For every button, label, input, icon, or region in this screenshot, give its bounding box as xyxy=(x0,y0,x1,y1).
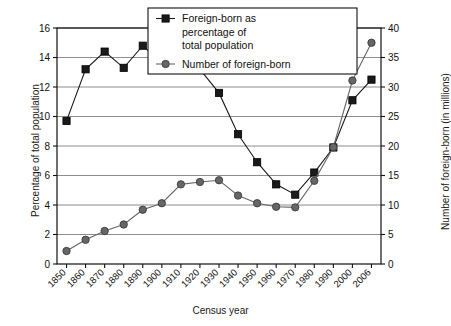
data-point xyxy=(215,177,222,184)
x-tick-label: 2000 xyxy=(331,267,354,290)
x-tick-label: 1940 xyxy=(217,267,240,290)
data-point xyxy=(158,200,165,207)
y-tick-label-right: 0 xyxy=(388,259,394,270)
x-tick-label: 1980 xyxy=(293,267,316,290)
data-point xyxy=(101,227,108,234)
y-axis-right-ticks: 0510152025303540 xyxy=(381,23,400,270)
data-point xyxy=(292,204,299,211)
y-axis-left-ticks: 0246810121416 xyxy=(39,23,57,270)
y-axis-left-title: Percentage of total population xyxy=(30,56,41,246)
data-point xyxy=(63,247,70,254)
data-point xyxy=(330,143,337,150)
data-point xyxy=(273,181,280,188)
y-tick-label-right: 20 xyxy=(388,141,400,152)
x-tick-label: 1870 xyxy=(83,267,106,290)
y-tick-label-right: 15 xyxy=(388,170,400,181)
data-point xyxy=(139,42,146,49)
x-tick-label: 1850 xyxy=(45,267,68,290)
data-point xyxy=(349,97,356,104)
legend-label: Number of foreign-born xyxy=(182,58,291,70)
data-point xyxy=(139,206,146,213)
x-axis-title: Census year xyxy=(0,305,441,316)
data-point xyxy=(234,131,241,138)
y-tick-label-left: 6 xyxy=(44,170,50,181)
data-point xyxy=(368,76,375,83)
data-point xyxy=(272,203,279,210)
x-tick-label: 1860 xyxy=(64,267,87,290)
data-point xyxy=(101,48,108,55)
data-point xyxy=(215,89,222,96)
x-tick-label: 1910 xyxy=(160,267,183,290)
x-tick-label: 1970 xyxy=(274,267,297,290)
chart-legend: Foreign-born aspercentage oftotal popula… xyxy=(148,8,357,74)
y-tick-label-right: 10 xyxy=(388,200,400,211)
y-tick-label-right: 30 xyxy=(388,82,400,93)
legend-label: total population xyxy=(182,39,253,51)
y-tick-label-left: 2 xyxy=(44,229,50,240)
y-tick-label-right: 40 xyxy=(388,23,400,34)
x-tick-label: 1880 xyxy=(102,267,125,290)
y-tick-label-right: 25 xyxy=(388,111,400,122)
data-point xyxy=(253,200,260,207)
data-point xyxy=(292,191,299,198)
y-tick-label-left: 4 xyxy=(44,200,50,211)
x-axis-ticks: 1850186018701880189019001910192019301940… xyxy=(45,264,373,289)
y-tick-label-right: 5 xyxy=(388,229,394,240)
y-tick-label-left: 12 xyxy=(39,82,51,93)
x-tick-label: 1930 xyxy=(198,267,221,290)
data-point xyxy=(311,169,318,176)
y-axis-right-title: Number of foreign-born (in millions) xyxy=(440,37,451,267)
y-tick-label-right: 35 xyxy=(388,52,400,63)
data-point xyxy=(349,77,356,84)
y-tick-label-left: 14 xyxy=(39,52,51,63)
y-tick-label-left: 16 xyxy=(39,23,51,34)
data-point xyxy=(82,66,89,73)
x-tick-label: 2006 xyxy=(350,267,373,290)
y-tick-label-left: 8 xyxy=(44,141,50,152)
data-point xyxy=(311,177,318,184)
x-tick-label: 1950 xyxy=(236,267,259,290)
data-point xyxy=(82,236,89,243)
x-tick-label: 1960 xyxy=(255,267,278,290)
data-point xyxy=(120,64,127,71)
legend-label: Foreign-born as xyxy=(182,12,256,24)
data-point xyxy=(368,39,375,46)
y-tick-label-left: 10 xyxy=(39,111,51,122)
data-point xyxy=(177,181,184,188)
data-point xyxy=(254,159,261,166)
legend-label: percentage of xyxy=(182,26,246,38)
x-tick-label: 1920 xyxy=(179,267,202,290)
x-tick-label: 1890 xyxy=(121,267,144,290)
data-point xyxy=(63,117,70,124)
data-point xyxy=(234,192,241,199)
y-tick-label-left: 0 xyxy=(44,259,50,270)
x-tick-label: 1990 xyxy=(312,267,335,290)
x-tick-label: 1900 xyxy=(141,267,164,290)
data-point xyxy=(120,221,127,228)
data-point xyxy=(196,178,203,185)
